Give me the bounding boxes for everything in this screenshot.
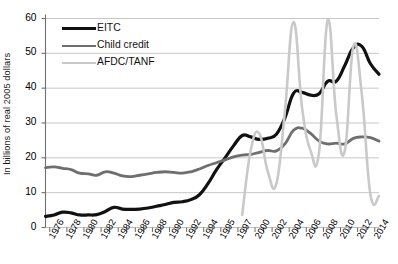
legend-item-afdc-tanf: AFDC/TANF <box>62 54 155 71</box>
legend-label-child-credit: Child credit <box>97 40 149 50</box>
legend-label-eitc: EITC <box>97 23 121 33</box>
legend-item-child-credit: Child credit <box>62 37 155 54</box>
y-tick-label: 30 <box>13 116 37 127</box>
chart-container: In billions of real 2005 dollars 0102030… <box>0 0 398 264</box>
legend-swatch-eitc <box>62 27 96 30</box>
y-tick-label: 20 <box>13 151 37 162</box>
y-tick-label: 40 <box>13 81 37 92</box>
axis-lines-group <box>42 15 46 228</box>
legend-swatch-afdc-tanf <box>62 62 96 64</box>
series-line <box>242 20 379 215</box>
chart-legend: EITC Child credit AFDC/TANF <box>62 20 155 71</box>
y-tick-label: 50 <box>13 46 37 57</box>
legend-swatch-child-credit <box>62 45 96 47</box>
legend-label-afdc-tanf: AFDC/TANF <box>97 57 155 67</box>
legend-item-eitc: EITC <box>62 20 155 37</box>
y-tick-label: 0 <box>13 221 37 232</box>
series-line <box>46 128 380 177</box>
y-tick-label: 60 <box>13 12 37 23</box>
series-afdc-tanf <box>242 20 379 215</box>
series-child-credit <box>46 128 380 177</box>
y-tick-label: 10 <box>13 186 37 197</box>
